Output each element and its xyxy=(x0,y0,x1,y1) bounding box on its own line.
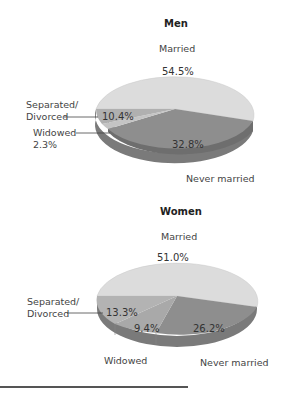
men-married-pct: 54.5% xyxy=(162,66,194,77)
bottom-rule-divider xyxy=(0,386,188,388)
men-never-label: Never married xyxy=(186,173,255,184)
men-pie-graphic xyxy=(0,0,286,195)
women-pie-chart: Women Married 51.0% 26.2% Never married … xyxy=(0,195,286,385)
women-married-pct: 51.0% xyxy=(157,252,189,263)
women-sep-label-1: Separated/ xyxy=(27,296,79,307)
women-title: Women xyxy=(160,206,202,217)
men-married-label: Married xyxy=(159,43,195,54)
women-sep-label-2: Divorced xyxy=(27,308,69,319)
men-pie-chart: Men Married 54.5% 32.8% Never married 10… xyxy=(0,0,286,195)
men-never-pct: 32.8% xyxy=(172,139,204,150)
women-never-label: Never married xyxy=(200,357,269,368)
men-widowed-pct: 2.3% xyxy=(33,139,57,150)
men-title: Men xyxy=(164,18,188,29)
men-widowed-label: Widowed xyxy=(33,127,76,138)
women-sep-pct: 13.3% xyxy=(106,307,138,318)
men-sep-label-1: Separated/ xyxy=(26,99,78,110)
women-married-label: Married xyxy=(161,231,197,242)
men-sep-label-2: Divorced xyxy=(26,111,68,122)
women-never-pct: 26.2% xyxy=(193,323,225,334)
men-sep-pct: 10.4% xyxy=(102,111,134,122)
women-widowed-label: Widowed xyxy=(104,355,147,366)
women-widowed-pct: 9.4% xyxy=(134,323,159,334)
